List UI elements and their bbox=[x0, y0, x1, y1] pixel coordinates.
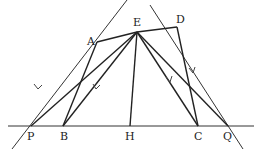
label-A: A bbox=[87, 36, 95, 47]
line-through-P-A bbox=[12, 0, 127, 149]
parallel-arrow-icon bbox=[34, 84, 42, 89]
segment-EH bbox=[130, 32, 137, 126]
segment-EQ bbox=[137, 32, 228, 126]
segment-EB bbox=[63, 32, 137, 126]
label-B: B bbox=[60, 131, 68, 142]
segment-ED bbox=[137, 27, 177, 32]
label-D: D bbox=[176, 14, 185, 25]
label-Q: Q bbox=[223, 131, 232, 142]
label-C: C bbox=[194, 131, 202, 142]
parallel-arrow-icon bbox=[93, 84, 100, 89]
label-E: E bbox=[133, 17, 141, 28]
geometry-diagram: A E D P B H C Q bbox=[0, 0, 254, 149]
segment-EP bbox=[31, 32, 137, 126]
line-through-Q-D bbox=[150, 5, 243, 149]
diagram-svg bbox=[0, 0, 254, 149]
label-H: H bbox=[125, 131, 135, 142]
label-P: P bbox=[27, 131, 34, 142]
segment-AB bbox=[63, 42, 97, 126]
